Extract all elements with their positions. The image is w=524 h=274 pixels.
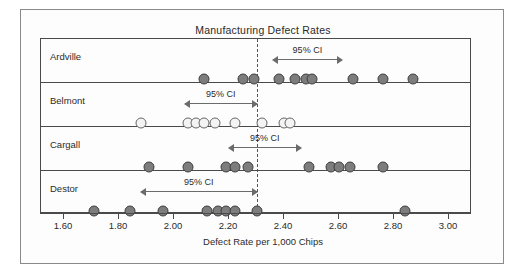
arrow-right-icon — [337, 56, 343, 64]
data-point — [251, 206, 262, 217]
category-row: Ardville95% CI — [41, 39, 470, 83]
axis-tick-label: 1.60 — [54, 220, 73, 231]
data-point — [158, 206, 169, 217]
axis-tick-label: 2.60 — [329, 220, 348, 231]
axis-tick-label: 2.40 — [274, 220, 293, 231]
arrow-right-icon — [252, 188, 258, 196]
category-label: Belmont — [50, 95, 85, 106]
axis-tick — [283, 213, 284, 219]
arrow-left-icon — [184, 100, 190, 108]
arrow-left-icon — [272, 56, 278, 64]
confidence-interval-label: 95% CI — [206, 89, 236, 99]
category-label: Destor — [50, 183, 78, 194]
x-axis-label: Defect Rate per 1,000 Chips — [21, 236, 505, 247]
axis-tick — [63, 213, 64, 219]
category-row: Belmont95% CI — [41, 83, 470, 127]
axis-tick-label: 3.00 — [439, 220, 458, 231]
confidence-interval-bar — [141, 191, 257, 192]
category-label: Cargall — [50, 139, 80, 150]
axis-tick-label: 2.00 — [164, 220, 183, 231]
data-point — [202, 206, 213, 217]
confidence-interval-label: 95% CI — [293, 45, 323, 55]
axis-tick — [173, 213, 174, 219]
plot-panel: Ardville95% CIBelmont95% CICargall95% CI… — [40, 38, 471, 213]
axis-tick-label: 1.80 — [109, 220, 128, 231]
data-point — [229, 206, 240, 217]
axis-tick — [393, 213, 394, 219]
chart-figure: Manufacturing Defect Rates Ardville95% C… — [20, 9, 504, 264]
arrow-right-icon — [296, 144, 302, 152]
data-point — [89, 206, 100, 217]
chart-title: Manufacturing Defect Rates — [21, 24, 505, 36]
confidence-interval-bar — [229, 147, 301, 148]
axis-tick — [448, 213, 449, 219]
arrow-right-icon — [252, 100, 258, 108]
axis-tick — [118, 213, 119, 219]
confidence-interval-label: 95% CI — [184, 177, 214, 187]
data-point — [125, 206, 136, 217]
data-point — [400, 206, 411, 217]
x-axis — [40, 213, 471, 214]
axis-tick-label: 2.20 — [219, 220, 238, 231]
axis-tick-label: 2.80 — [384, 220, 403, 231]
axis-tick — [228, 213, 229, 219]
category-row: Cargall95% CI — [41, 127, 470, 171]
arrow-left-icon — [140, 188, 146, 196]
confidence-interval-label: 95% CI — [250, 133, 280, 143]
category-label: Ardville — [50, 51, 81, 62]
confidence-interval-bar — [185, 103, 257, 104]
arrow-left-icon — [228, 144, 234, 152]
category-row: Destor95% CI — [41, 171, 470, 215]
confidence-interval-bar — [273, 59, 342, 60]
axis-tick — [338, 213, 339, 219]
